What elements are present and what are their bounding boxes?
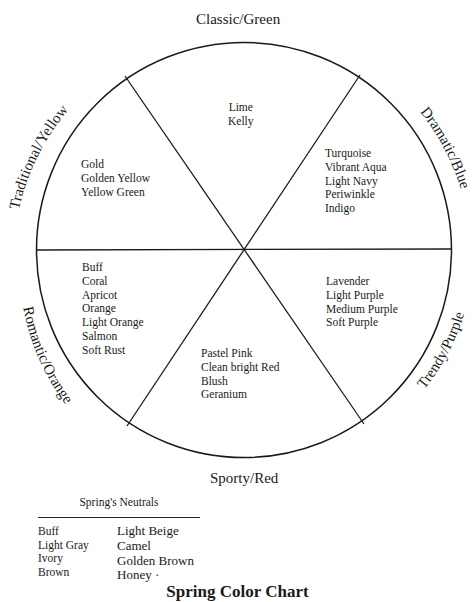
color-item: Soft Rust [82,344,144,358]
label-traditional-yellow: Traditional/Yellow [6,101,71,210]
color-item: Lime [228,101,254,115]
segment-yellow-colors: GoldGolden YellowYellow Green [81,158,150,199]
segment-blue-colors: TurquoiseVibrant AquaLight NavyPeriwinkl… [325,147,387,216]
color-item: Vibrant Aqua [325,161,387,175]
label-trendy-purple: Trendy/Purple [414,309,467,391]
color-item: Yellow Green [81,186,150,200]
color-item: Geranium [201,388,280,402]
color-item: Indigo [325,202,387,216]
color-item: Golden Brown [117,554,194,569]
segment-red-colors: Pastel PinkClean bright RedBlushGeranium [201,347,280,402]
neutrals-divider [38,517,200,518]
color-item: Salmon [82,330,144,344]
label-sporty-red: Sporty/Red [210,470,278,487]
color-item: Coral [82,275,144,289]
segment-purple-colors: LavenderLight PurpleMedium PurpleSoft Pu… [326,275,398,330]
color-item: Golden Yellow [81,172,150,186]
label-classic-green: Classic/Green [196,11,280,28]
neutrals-column-2: Light BeigeCamelGolden BrownHoney · [117,524,194,583]
color-item: Buff [38,525,89,539]
color-item: Light Orange [82,316,144,330]
color-item: Apricot [82,289,144,303]
color-item: Brown [38,566,89,580]
color-item: Blush [201,375,280,389]
color-item: Camel [117,539,194,554]
color-item: Buff [82,261,144,275]
color-item: Soft Purple [326,316,398,330]
color-item: Ivory [38,552,89,566]
color-item: Gold [81,158,150,172]
color-item: Pastel Pink [201,347,280,361]
color-item: Orange [82,302,144,316]
color-item: Turquoise [325,147,387,161]
segment-green-colors: LimeKelly [228,101,254,129]
color-item: Light Beige [117,524,194,539]
neutrals-column-1: BuffLight GrayIvoryBrown [38,525,89,579]
color-item: Light Navy [325,175,387,189]
neutrals-title: Spring's Neutrals [36,496,202,508]
color-item: Honey · [117,568,194,583]
segment-orange-colors: BuffCoralApricotOrangeLight OrangeSalmon… [82,261,144,358]
color-item: Periwinkle [325,188,387,202]
label-dramatic-blue: Dramatic/Blue [418,104,474,191]
chart-title: Spring Color Chart [0,582,475,602]
color-item: Lavender [326,275,398,289]
color-item: Kelly [228,115,254,129]
color-item: Light Gray [38,539,89,553]
color-item: Medium Purple [326,303,398,317]
color-item: Light Purple [326,289,398,303]
color-item: Clean bright Red [201,361,280,375]
